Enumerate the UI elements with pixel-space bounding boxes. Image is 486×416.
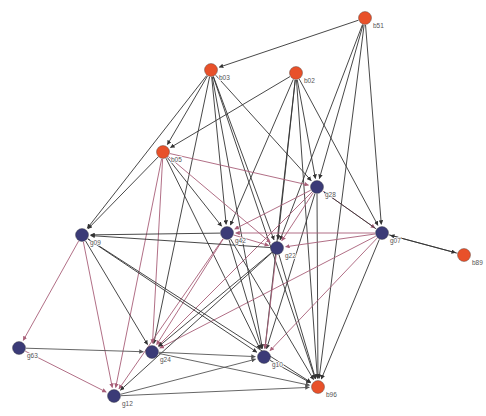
graph-edge bbox=[366, 25, 382, 224]
graph-edge bbox=[235, 190, 311, 229]
graph-edge bbox=[282, 193, 313, 241]
graph-edge bbox=[26, 348, 143, 352]
graph-edge bbox=[286, 234, 375, 247]
graph-node-g22[interactable] bbox=[271, 242, 284, 255]
graph-node-label-b02: b02 bbox=[304, 77, 315, 84]
graph-edge bbox=[159, 352, 255, 356]
graph-edges-layer bbox=[23, 20, 457, 395]
graph-edge bbox=[121, 359, 256, 394]
graph-node-g09[interactable] bbox=[76, 229, 89, 242]
graph-edge bbox=[83, 242, 112, 388]
graph-node-b03[interactable] bbox=[205, 64, 218, 77]
graph-node-b02[interactable] bbox=[290, 67, 303, 80]
graph-nodes-layer bbox=[13, 12, 471, 403]
graph-edge bbox=[120, 253, 271, 390]
graph-node-label-g07: g07 bbox=[390, 237, 401, 245]
graph-node-label-g28: g28 bbox=[325, 191, 336, 199]
graph-node-g24[interactable] bbox=[146, 346, 159, 359]
graph-node-g28[interactable] bbox=[311, 181, 324, 194]
graph-edge bbox=[212, 77, 226, 224]
graph-edge bbox=[167, 76, 207, 144]
graph-edge bbox=[25, 351, 106, 392]
graph-node-label-b51: b51 bbox=[373, 22, 384, 29]
graph-node-label-g24: g24 bbox=[160, 356, 171, 364]
graph-node-label-b03: b03 bbox=[219, 74, 230, 81]
graph-node-label-g12: g12 bbox=[122, 400, 133, 408]
graph-edge bbox=[219, 20, 358, 67]
graph-edge bbox=[319, 25, 363, 179]
network-graph-svg: b51b03b02b05g28g07g42g22g09b89g63g24g10b… bbox=[0, 0, 486, 416]
graph-edge bbox=[231, 239, 314, 379]
graph-node-b89[interactable] bbox=[458, 249, 471, 262]
graph-edge bbox=[121, 387, 309, 395]
graph-node-g42[interactable] bbox=[221, 227, 234, 240]
graph-edge bbox=[324, 192, 376, 229]
graph-edge bbox=[160, 236, 376, 348]
graph-node-label-b89: b89 bbox=[472, 259, 483, 266]
graph-edge bbox=[213, 77, 274, 240]
graph-node-label-b96: b96 bbox=[326, 391, 337, 398]
graph-node-g63[interactable] bbox=[13, 342, 26, 355]
graph-edge bbox=[317, 194, 318, 378]
graph-node-b51[interactable] bbox=[359, 12, 372, 25]
graph-edge bbox=[159, 252, 272, 346]
graph-edge bbox=[154, 77, 210, 344]
graph-edge bbox=[299, 79, 378, 225]
graph-node-g07[interactable] bbox=[376, 227, 389, 240]
graph-node-b96[interactable] bbox=[312, 381, 325, 394]
graph-edge bbox=[86, 241, 148, 345]
graph-edge bbox=[390, 235, 457, 253]
graph-edge bbox=[88, 157, 158, 229]
graph-node-g12[interactable] bbox=[108, 390, 121, 403]
network-graph-canvas: b51b03b02b05g28g07g42g22g09b89g63g24g10b… bbox=[0, 0, 486, 416]
graph-node-label-b05: b05 bbox=[171, 156, 182, 163]
graph-edge bbox=[152, 159, 162, 343]
graph-node-g10[interactable] bbox=[258, 351, 271, 364]
graph-edge bbox=[91, 233, 220, 235]
graph-edge bbox=[23, 241, 78, 340]
graph-node-b05[interactable] bbox=[157, 146, 170, 159]
